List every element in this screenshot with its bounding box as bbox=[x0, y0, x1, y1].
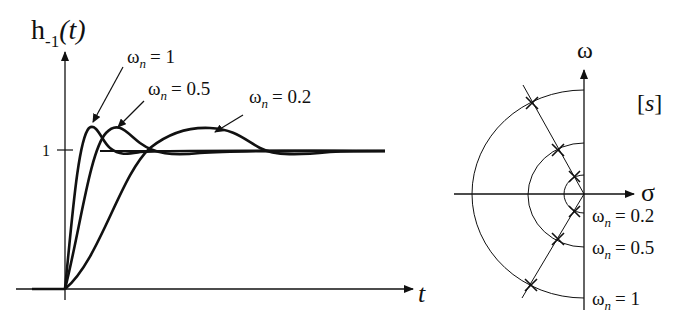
pole-x-icon bbox=[525, 279, 537, 291]
figure-canvas: 1 h-1(t) t ωn= 1 ωn= 0.5 ωn= 0.2 bbox=[0, 0, 688, 325]
sigma-axis-label: σ bbox=[641, 178, 655, 207]
y-axis-label: h-1(t) bbox=[31, 14, 86, 51]
arrow-wn-1 bbox=[93, 67, 123, 122]
step-response-plot: 1 h-1(t) t ωn= 1 ωn= 0.5 ωn= 0.2 bbox=[16, 14, 426, 308]
pole-plot: ω σ [s] ωn= 0.2 ωn= 0.5 ωn= 1 bbox=[454, 37, 662, 313]
label-circle-wn-0.2: ωn= 0.2 bbox=[592, 205, 654, 230]
pole-x-icon bbox=[552, 144, 564, 156]
tick-one-label: 1 bbox=[42, 142, 50, 159]
label-circle-wn-1: ωn= 1 bbox=[592, 288, 640, 313]
s-plane-label: [s] bbox=[637, 90, 662, 116]
arrow-wn-0.2 bbox=[215, 115, 243, 132]
omega-axis-label: ω bbox=[577, 37, 593, 63]
label-wn-0.5: ωn= 0.5 bbox=[148, 78, 210, 103]
pole-x-icon bbox=[569, 171, 580, 182]
pole-x-icon bbox=[569, 206, 580, 217]
label-wn-1: ωn= 1 bbox=[127, 46, 175, 71]
arrow-wn-0.5 bbox=[118, 101, 144, 127]
label-wn-0.2: ωn= 0.2 bbox=[249, 86, 311, 111]
pole-x-icon bbox=[526, 97, 538, 109]
x-axis-label: t bbox=[418, 279, 426, 308]
circle-wn-0.5 bbox=[528, 143, 584, 247]
label-circle-wn-0.5: ωn= 0.5 bbox=[592, 237, 654, 262]
